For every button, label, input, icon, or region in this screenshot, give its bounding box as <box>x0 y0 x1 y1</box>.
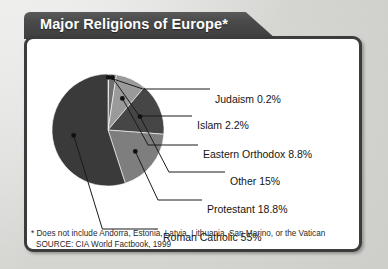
footnote-disclaimer: * Does not include Andorra, Estonia, Lat… <box>31 229 361 240</box>
pie-label-judaism: Judaism 0.2% <box>215 93 281 105</box>
page-title: Major Religions of Europe* <box>40 16 228 32</box>
infographic-root: Major Religions of Europe* Judaism 0.2% … <box>0 0 388 269</box>
pie-label-eastern-orthodox: Eastern Orthodox 8.8% <box>203 148 312 160</box>
pie-label-other: Other 15% <box>230 175 280 187</box>
pie-slice-marker <box>138 114 143 119</box>
pie-chart: Judaism 0.2% Islam 2.2% Eastern Orthodox… <box>27 39 359 249</box>
pie-chart-svg <box>27 39 359 249</box>
title-bar: Major Religions of Europe* <box>24 12 276 39</box>
pie-label-islam: Islam 2.2% <box>197 119 249 131</box>
pie-slice-marker <box>71 133 76 138</box>
pie-slice-marker <box>133 149 138 154</box>
footnote-block: * Does not include Andorra, Estonia, Lat… <box>31 229 361 250</box>
pie-label-protestant: Protestant 18.8% <box>207 203 288 215</box>
chart-panel: Judaism 0.2% Islam 2.2% Eastern Orthodox… <box>24 36 362 252</box>
footnote-source: SOURCE: CIA World Factbook, 1999 <box>31 240 361 251</box>
pie-slice-marker <box>110 75 115 80</box>
pie-slice-marker <box>120 96 125 101</box>
